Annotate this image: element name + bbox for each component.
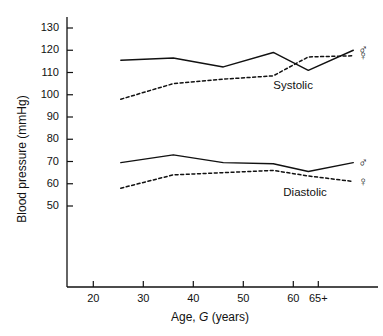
- x-axis-title-variable: G: [199, 310, 208, 324]
- x-axis-title-before: Age,: [171, 310, 199, 324]
- x-axis-title: Age, G (years): [100, 310, 320, 324]
- sex-symbol-diastolic-male: ♂: [358, 156, 368, 169]
- y-tick-label-120: 120: [29, 44, 59, 55]
- y-tick-label-130: 130: [29, 22, 59, 33]
- x-tick-label-20: 20: [76, 293, 110, 304]
- sex-symbol-diastolic-female: ♀: [358, 175, 368, 188]
- y-axis-title: Blood pressure (mmHg): [15, 59, 29, 259]
- y-tick-label-50: 50: [29, 200, 59, 211]
- series-line-systolic-male: [121, 50, 353, 70]
- y-tick-label-100: 100: [29, 89, 59, 100]
- series-line-diastolic-male: [121, 155, 353, 172]
- x-tick-label-65+: 65+: [301, 293, 335, 304]
- y-tick-label-60: 60: [29, 178, 59, 189]
- y-tick-label-110: 110: [29, 67, 59, 78]
- blood-pressure-chart: 5060708090100110120130 203040506065+ Blo…: [0, 0, 383, 336]
- data-series-group: [121, 50, 353, 188]
- annotation-systolic: Systolic: [273, 79, 313, 91]
- y-tick-label-80: 80: [29, 133, 59, 144]
- x-tick-label-50: 50: [226, 293, 260, 304]
- y-tick-label-90: 90: [29, 111, 59, 122]
- y-tick-marks: [67, 28, 73, 206]
- x-tick-label-30: 30: [126, 293, 160, 304]
- x-axis-title-after: (years): [208, 310, 249, 324]
- annotation-diastolic: Diastolic: [283, 186, 326, 198]
- x-tick-marks: [93, 281, 318, 287]
- y-tick-label-70: 70: [29, 156, 59, 167]
- sex-symbol-systolic-female: ♀: [358, 49, 368, 62]
- x-tick-label-40: 40: [176, 293, 210, 304]
